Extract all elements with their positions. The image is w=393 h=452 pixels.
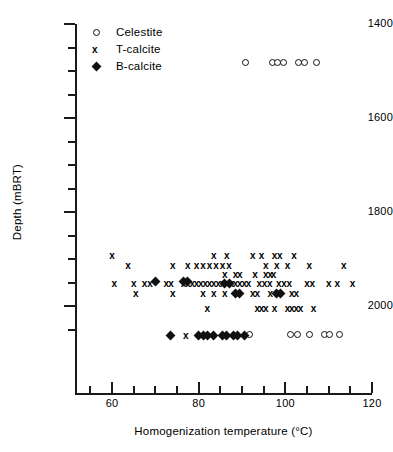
y-tick-minor [68, 329, 75, 331]
data-point-t-calcite: x [209, 289, 218, 298]
data-point-t-calcite: x [220, 289, 229, 298]
data-point-celestite [301, 59, 308, 66]
data-point-t-calcite: x [124, 261, 133, 270]
x-tick-minor [306, 386, 308, 393]
data-point-celestite [294, 331, 301, 338]
open-circle-glyph [93, 29, 100, 36]
data-point-t-calcite: x [296, 304, 305, 313]
data-point-t-calcite: x [305, 261, 314, 270]
filled-diamond-glyph [92, 62, 102, 72]
x-tick-minor [154, 386, 156, 393]
data-point-t-calcite: x [199, 289, 208, 298]
scatter-plot-figure: 1400160018002000 6080100120 Depth (mBRT)… [0, 0, 393, 452]
y-tick-minor [68, 141, 75, 143]
y-axis-line [75, 24, 77, 395]
x-tick-minor [89, 386, 91, 393]
x-tick-minor [219, 386, 221, 393]
x-axis-line [75, 393, 372, 395]
data-point-t-calcite: x [203, 304, 212, 313]
y-tick-label: 1600 [355, 112, 393, 123]
y-tick-minor [68, 70, 75, 72]
data-point-t-calcite: x [257, 251, 266, 260]
y-tick-minor [68, 94, 75, 96]
y-tick-label: 1400 [355, 18, 393, 29]
x-marker-glyph: x [92, 43, 98, 56]
y-tick-major [64, 23, 75, 25]
y-tick-major [64, 117, 75, 119]
y-tick-major [64, 211, 75, 213]
x-tick-label: 60 [92, 398, 132, 409]
data-point-t-calcite: x [270, 304, 279, 313]
data-point-t-calcite: x [110, 279, 119, 288]
data-point-t-calcite: x [348, 279, 357, 288]
legend-label: Celestite [116, 26, 163, 39]
data-point-celestite [280, 59, 287, 66]
data-point-b-calcite [166, 331, 176, 341]
data-point-t-calcite: x [222, 251, 231, 260]
x-tick-major [198, 382, 200, 393]
x-tick-minor [328, 386, 330, 393]
y-tick-minor [68, 258, 75, 260]
y-tick-minor [68, 47, 75, 49]
data-point-celestite [313, 59, 320, 66]
data-point-t-calcite: x [253, 289, 262, 298]
data-point-t-calcite: x [248, 251, 257, 260]
data-point-t-calcite: x [339, 261, 348, 270]
open-circle-icon [92, 24, 106, 41]
x-tick-major [284, 382, 286, 393]
data-point-celestite [326, 331, 333, 338]
x-tick-minor [349, 386, 351, 393]
data-point-t-calcite: x [168, 261, 177, 270]
y-axis-title: Depth (mBRT) [11, 147, 23, 257]
x-tick-minor [263, 386, 265, 393]
y-tick-label: 2000 [355, 300, 393, 311]
x-tick-minor [133, 386, 135, 393]
data-point-t-calcite: x [283, 261, 292, 270]
x-tick-major [371, 382, 373, 393]
x-marker-icon: x [92, 41, 106, 58]
data-point-t-calcite: x [183, 261, 192, 270]
data-point-t-calcite: x [290, 251, 299, 260]
x-tick-label: 100 [265, 398, 305, 409]
y-tick-minor [68, 282, 75, 284]
data-point-celestite [306, 331, 313, 338]
x-tick-minor [241, 386, 243, 393]
data-point-t-calcite: x [261, 304, 270, 313]
legend-label: B-calcite [116, 60, 162, 73]
y-tick-minor [68, 188, 75, 190]
x-tick-minor [176, 386, 178, 393]
data-point-t-calcite: x [308, 279, 317, 288]
data-point-t-calcite: x [333, 279, 342, 288]
data-point-t-calcite: x [108, 251, 117, 260]
data-point-t-calcite: x [181, 331, 190, 340]
data-point-celestite [336, 331, 343, 338]
x-tick-label: 80 [179, 398, 219, 409]
y-tick-major [64, 305, 75, 307]
legend-label: T-calcite [116, 43, 161, 56]
y-tick-minor [68, 235, 75, 237]
y-tick-label: 1800 [355, 206, 393, 217]
data-point-t-calcite: x [209, 251, 218, 260]
y-tick-minor [68, 164, 75, 166]
data-point-t-calcite: x [168, 289, 177, 298]
data-point-t-calcite: x [275, 251, 284, 260]
data-point-t-calcite: x [309, 304, 318, 313]
data-point-t-calcite: x [131, 289, 140, 298]
filled-diamond-icon [92, 58, 106, 75]
x-tick-label: 120 [352, 398, 392, 409]
data-point-t-calcite: x [324, 279, 333, 288]
x-axis-title: Homogenization temperature (°C) [75, 425, 372, 437]
data-point-t-calcite: x [292, 289, 301, 298]
x-tick-major [111, 382, 113, 393]
data-point-celestite [242, 59, 249, 66]
